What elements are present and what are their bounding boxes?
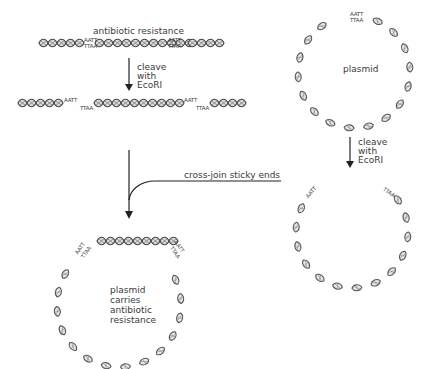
insert-label: antibiotic resistance bbox=[93, 26, 184, 36]
cleave-arrow-left bbox=[125, 58, 133, 91]
result-line3: antibiotic bbox=[110, 305, 152, 315]
cross-join-label: cross-join sticky ends bbox=[184, 170, 280, 180]
plasmid-sticky-bottom: TTAA bbox=[350, 18, 363, 24]
sticky-end-bottom-2: TTAA bbox=[168, 44, 181, 50]
sticky-end-bottom: TTAA bbox=[84, 44, 97, 50]
result-line2: carries bbox=[110, 295, 140, 305]
cross-join-arrow bbox=[125, 150, 281, 219]
diagram-canvas bbox=[0, 0, 432, 369]
cut-fragments bbox=[18, 99, 246, 107]
cleave-left-line3: EcoRI bbox=[137, 80, 162, 90]
cleave-right-line3: EcoRI bbox=[358, 155, 383, 165]
fragment-right-start: TTAA bbox=[196, 106, 209, 112]
insert-dna-strand bbox=[39, 39, 224, 47]
result-line1: plasmid bbox=[110, 285, 145, 295]
result-line4: resistance bbox=[110, 315, 156, 325]
fragment-left-end: AATT bbox=[64, 98, 77, 104]
fragment-middle-end: AATT bbox=[184, 98, 197, 104]
cleave-arrow-right bbox=[346, 137, 354, 168]
fragment-middle-start: TTAA bbox=[80, 106, 93, 112]
plasmid-label: plasmid bbox=[343, 64, 378, 74]
opened-plasmid bbox=[293, 194, 411, 291]
